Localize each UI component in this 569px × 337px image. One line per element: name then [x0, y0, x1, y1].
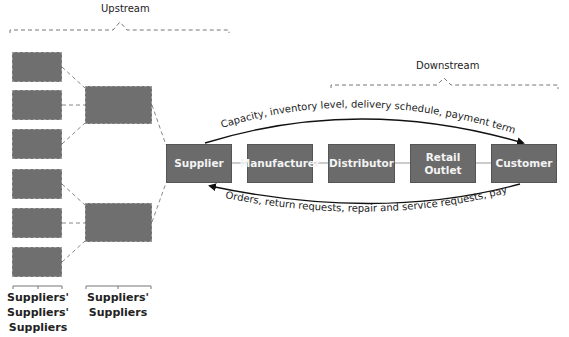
- node-retail-outlet: Retail Outlet: [410, 144, 476, 183]
- downstream-label: Downstream: [416, 60, 479, 71]
- node-retail-outlet-label: Retail Outlet: [424, 151, 461, 176]
- node-manufacturer: Manufacturer: [247, 144, 313, 183]
- upstream-brace: [10, 22, 229, 33]
- node-distributor-label: Distributor: [329, 157, 394, 170]
- tier3-supplier-box: [12, 90, 62, 120]
- tier2-to-supplier-links: [152, 105, 166, 222]
- tier2-supplier-box: [85, 203, 152, 242]
- node-distributor: Distributor: [328, 144, 395, 183]
- tier3-to-tier2-links: [62, 67, 85, 262]
- node-customer: Customer: [491, 144, 557, 183]
- node-supplier-label: Supplier: [174, 157, 224, 170]
- tier-brackets: [13, 286, 151, 289]
- tier3-supplier-box: [12, 129, 62, 159]
- tier3-supplier-box: [12, 169, 62, 199]
- tier2-supplier-box: [85, 86, 152, 124]
- tier3-label: Suppliers' Suppliers' Suppliers: [4, 291, 72, 336]
- node-manufacturer-label: Manufacturer: [240, 157, 320, 170]
- downstream-brace: [331, 78, 558, 89]
- tier2-label: Suppliers' Suppliers: [80, 291, 156, 321]
- tier3-supplier-box: [12, 247, 62, 277]
- node-customer-label: Customer: [496, 157, 553, 170]
- tier3-supplier-box: [12, 52, 62, 82]
- node-supplier: Supplier: [166, 144, 232, 183]
- upstream-label: Upstream: [101, 3, 150, 14]
- tier3-supplier-box: [12, 208, 62, 238]
